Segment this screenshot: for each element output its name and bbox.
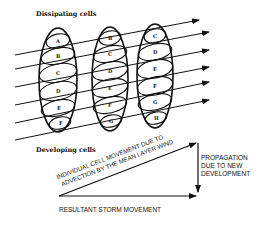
storm-propagation-diagram: Dissipating cells Developing cells A B C… — [0, 0, 266, 226]
cell-label: F — [59, 120, 63, 126]
cell-label: C — [153, 33, 157, 39]
cell-label: D — [153, 49, 158, 55]
advection-label: INDIVIDUAL CELL MOVEMENT DUE TO ADVECTIO… — [55, 130, 174, 188]
cell-label: G — [153, 99, 157, 105]
cell-label: A — [55, 38, 60, 44]
cell-label: D — [108, 68, 113, 74]
cell-label: H — [154, 115, 159, 121]
cell-label: B — [108, 35, 112, 41]
cell-label: B — [56, 53, 60, 59]
propagation-label-line1: PROPAGATION — [201, 154, 248, 161]
developing-cells-label: Developing cells — [36, 146, 96, 154]
cell-label: G — [109, 118, 113, 124]
resultant-label: RESULTANT STORM MOVEMENT — [59, 206, 161, 213]
cell-label: E — [57, 105, 61, 111]
storm-column-2 — [91, 27, 130, 131]
storm-column-3 — [136, 24, 175, 128]
propagation-label-line2: DUE TO NEW — [201, 162, 243, 169]
cell-label: E — [153, 66, 157, 72]
cell-label: D — [56, 88, 61, 94]
advection-label-line1: INDIVIDUAL CELL MOVEMENT DUE TO — [55, 133, 164, 180]
cell-label: F — [108, 102, 112, 108]
dissipating-cells-label: Dissipating cells — [36, 10, 97, 18]
cell-label: C — [108, 51, 112, 57]
cell-label: C — [56, 70, 60, 76]
cell-label: E — [108, 85, 112, 91]
propagation-label-line3: DEVELOPMENT — [201, 170, 250, 177]
cell-label: F — [153, 83, 157, 89]
